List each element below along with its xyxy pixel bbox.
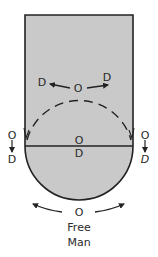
offense-top: O <box>74 83 83 94</box>
caption-free: Free <box>67 222 90 233</box>
caption-man: Man <box>67 237 90 248</box>
arrow-bottom-left <box>33 204 62 212</box>
defender-right-side: D <box>141 154 149 165</box>
offense-left-side: O <box>8 130 17 141</box>
arrow-bottom-right <box>95 204 124 212</box>
defender-left-side: D <box>8 154 16 165</box>
lane-area <box>25 15 133 200</box>
defender-center: D <box>75 148 83 159</box>
defender-top-left: D <box>38 77 46 88</box>
offense-free-man: O <box>75 207 84 218</box>
offense-right-side: O <box>141 130 150 141</box>
defender-top-right: D <box>103 72 111 83</box>
offense-center: O <box>75 135 84 146</box>
